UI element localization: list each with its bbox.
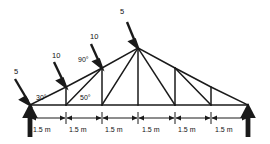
diagonal-f-to-k — [175, 68, 211, 105]
load-arrow-apex — [127, 22, 138, 48]
load-arrow-mid-left — [54, 62, 66, 87]
applied-load-arrows — [15, 22, 138, 105]
angle-label-node-c: 50° — [80, 94, 91, 101]
dimension-label-5: 1.5 m — [178, 126, 196, 133]
truss-drawing — [0, 0, 270, 144]
truss-diagram-canvas: 5 10 10 5 30° 50° 90° 1.5 m 1.5 m 1.5 m … — [0, 0, 270, 144]
top-chord-right — [138, 48, 248, 105]
angle-label-left-support: 30° — [36, 94, 47, 101]
load-label-upper-left: 10 — [90, 33, 98, 41]
dimension-label-4: 1.5 m — [142, 126, 160, 133]
truss-members — [30, 48, 248, 105]
load-label-apex: 5 — [120, 8, 124, 16]
load-arrow-left — [15, 79, 30, 105]
load-label-left: 5 — [14, 68, 18, 76]
dimension-label-1: 1.5 m — [33, 126, 51, 133]
dimension-line-group — [30, 112, 248, 124]
diagonal-e-to-j — [138, 48, 175, 105]
load-arrow-upper-left — [91, 44, 102, 68]
diagonal-c-to-j — [102, 48, 138, 105]
dimension-label-2: 1.5 m — [69, 126, 87, 133]
angle-label-node-i: 90° — [78, 56, 89, 63]
dimension-label-6: 1.5 m — [215, 126, 233, 133]
dimension-label-3: 1.5 m — [105, 126, 123, 133]
load-label-mid-left: 10 — [52, 52, 60, 60]
